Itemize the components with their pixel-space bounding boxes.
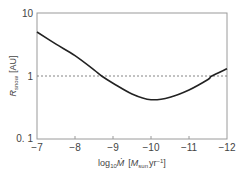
x-tick-label: −9 (107, 142, 119, 153)
data-curve (37, 32, 227, 100)
x-tick-label: −8 (69, 142, 81, 153)
x-axis-label: log10Ṁ[Msunyr−1] (98, 158, 166, 169)
x-tick-label: −10 (143, 142, 160, 153)
x-tick-label: −7 (31, 142, 43, 153)
y-tick-label: 1 (27, 71, 33, 82)
x-tick-label: −12 (219, 142, 236, 153)
x-tick-label: −11 (181, 142, 198, 153)
chart: 10 1 0. 1 −7 −8 −9 −10 −11 −12 log10Ṁ[Ms… (0, 0, 243, 175)
y-tick-label: 10 (22, 8, 34, 19)
y-axis-label: Rsnow[AU] (8, 55, 19, 96)
